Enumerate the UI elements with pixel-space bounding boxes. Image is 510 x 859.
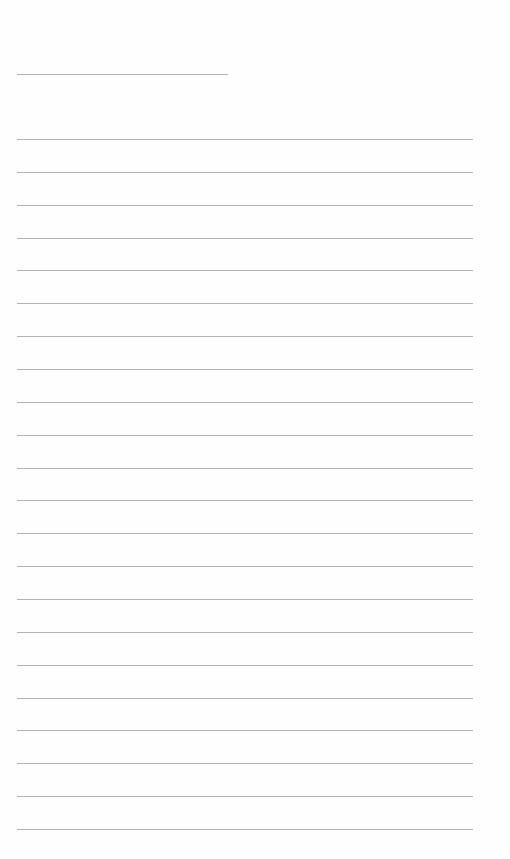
writing-line xyxy=(17,172,473,173)
writing-line xyxy=(17,205,473,206)
writing-line xyxy=(17,599,473,600)
writing-line xyxy=(17,533,473,534)
writing-line xyxy=(17,336,473,337)
writing-line xyxy=(17,566,473,567)
writing-line xyxy=(17,238,473,239)
writing-line xyxy=(17,796,473,797)
writing-line xyxy=(17,829,473,830)
writing-line xyxy=(17,730,473,731)
writing-lines-area xyxy=(17,0,473,859)
writing-line xyxy=(17,468,473,469)
writing-line xyxy=(17,665,473,666)
writing-line xyxy=(17,270,473,271)
writing-line xyxy=(17,435,473,436)
writing-line xyxy=(17,369,473,370)
writing-line xyxy=(17,139,473,140)
writing-line xyxy=(17,632,473,633)
writing-line xyxy=(17,698,473,699)
writing-line xyxy=(17,763,473,764)
writing-line xyxy=(17,402,473,403)
lined-paper-page xyxy=(0,0,510,859)
writing-line xyxy=(17,303,473,304)
writing-line xyxy=(17,500,473,501)
